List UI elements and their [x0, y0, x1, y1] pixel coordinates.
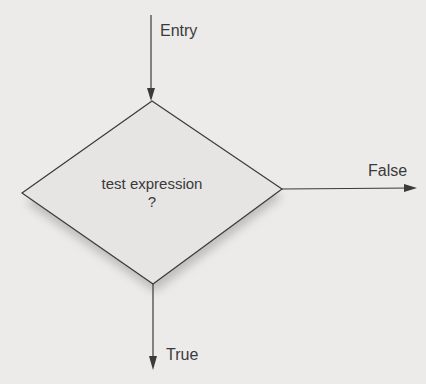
entry-arrow — [147, 15, 155, 101]
decision-text: test expression — [82, 176, 222, 191]
flowchart-canvas — [0, 0, 426, 384]
entry-label: Entry — [160, 23, 197, 39]
false-label: False — [368, 163, 407, 179]
false-arrow — [282, 184, 417, 192]
true-arrow — [149, 284, 157, 370]
true-label: True — [166, 347, 198, 363]
decision-question-mark: ? — [82, 194, 222, 209]
